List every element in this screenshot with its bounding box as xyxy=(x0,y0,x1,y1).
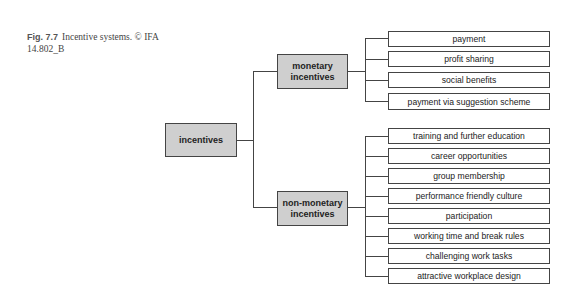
leaf-training: training and further education xyxy=(388,128,550,144)
leaf-label: participation xyxy=(446,211,492,221)
connector-to-monetary xyxy=(253,71,277,72)
root-node-label: incentives xyxy=(179,135,223,146)
connector-leaf xyxy=(365,216,388,217)
connector-leaf xyxy=(365,80,388,81)
connector-monetary-spine xyxy=(365,38,366,101)
leaf-social-benefits: social benefits xyxy=(388,72,550,88)
branch-label-line1: monetary xyxy=(292,61,333,72)
branch-node-non-monetary: non-monetary incentives xyxy=(277,191,348,226)
leaf-label: profit sharing xyxy=(444,54,494,64)
leaf-label: career opportunities xyxy=(431,151,507,161)
leaf-performance-friendly-culture: performance friendly culture xyxy=(388,188,550,204)
leaf-group-membership: group membership xyxy=(388,168,550,184)
figure-label: Fig. 7.7 xyxy=(27,32,58,42)
leaf-label: payment xyxy=(453,34,486,44)
leaf-challenging-work-tasks: challenging work tasks xyxy=(388,248,550,264)
leaf-label: working time and break rules xyxy=(414,231,524,241)
connector-leaf xyxy=(365,276,388,277)
connector-leaf xyxy=(365,136,388,137)
root-node-incentives: incentives xyxy=(165,123,237,157)
leaf-label: performance friendly culture xyxy=(416,191,523,201)
branch-label-line1: non-monetary xyxy=(282,198,342,209)
connector-leaf xyxy=(365,38,388,39)
connector-monetary-out xyxy=(347,71,365,72)
leaf-payment: payment xyxy=(388,31,550,47)
branch-label-line2: incentives xyxy=(290,209,334,220)
figure-caption: Fig. 7.7Incentive systems. © IFA 14.802_… xyxy=(27,31,177,55)
connector-leaf xyxy=(365,156,388,157)
leaf-label: social benefits xyxy=(442,75,496,85)
leaf-participation: participation xyxy=(388,208,550,224)
connector-leaf xyxy=(365,176,388,177)
connector-non-monetary-out xyxy=(347,207,365,208)
leaf-working-time-and-break-rules: working time and break rules xyxy=(388,228,550,244)
connector-root-spine xyxy=(253,71,254,208)
leaf-profit-sharing: profit sharing xyxy=(388,51,550,67)
leaf-label: attractive workplace design xyxy=(417,271,521,281)
connector-root-out xyxy=(236,140,254,141)
leaf-career-opportunities: career opportunities xyxy=(388,148,550,164)
connector-leaf xyxy=(365,196,388,197)
leaf-attractive-workplace-design: attractive workplace design xyxy=(388,268,550,284)
connector-leaf xyxy=(365,236,388,237)
branch-label-line2: incentives xyxy=(290,72,334,83)
connector-leaf xyxy=(365,256,388,257)
leaf-label: challenging work tasks xyxy=(426,251,512,261)
connector-leaf xyxy=(365,101,388,102)
leaf-label: payment via suggestion scheme xyxy=(408,97,531,107)
leaf-payment-via-suggestion-scheme: payment via suggestion scheme xyxy=(388,93,550,110)
connector-leaf xyxy=(365,59,388,60)
leaf-label: group membership xyxy=(433,171,505,181)
leaf-label: training and further education xyxy=(413,131,525,141)
branch-node-monetary: monetary incentives xyxy=(277,54,348,89)
connector-to-non-monetary xyxy=(253,207,277,208)
